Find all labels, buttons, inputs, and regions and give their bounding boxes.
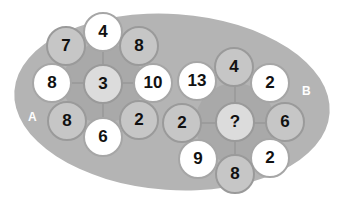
group-b-node-top: 4	[214, 47, 254, 87]
group-b-node-bottom-left: 9	[178, 139, 218, 179]
group-a-node-bottom-right: 2	[119, 100, 159, 140]
group-a-node-bottom-left: 8	[47, 101, 87, 141]
group-a-node-top: 4	[83, 12, 123, 52]
group-a-node-bottom: 6	[83, 117, 123, 157]
group-b-node-top-left: 13	[177, 61, 217, 101]
group-a-node-right: 10	[133, 63, 173, 103]
group-b-node-left: 2	[162, 103, 202, 143]
group-b-node-right: 6	[265, 102, 305, 142]
group-a-node-center: 3	[83, 64, 123, 104]
group-b-node-top-right: 2	[250, 63, 290, 103]
group-a-label: A	[28, 110, 37, 124]
group-a-node-left: 8	[32, 63, 72, 103]
group-b-node-bottom-right: 2	[250, 138, 290, 178]
group-a-node-top-left: 7	[46, 26, 86, 66]
group-b-node-center: ?	[215, 102, 255, 142]
group-b-node-bottom: 8	[215, 154, 255, 194]
group-b-label: B	[302, 84, 311, 98]
group-a-node-top-right: 8	[119, 26, 159, 66]
